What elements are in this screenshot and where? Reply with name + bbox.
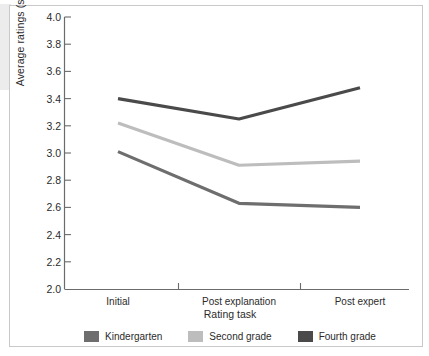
series-line-second-grade — [118, 123, 360, 165]
chart-plot — [0, 0, 429, 356]
chart-legend: Kindergarten Second grade Fourth grade — [60, 331, 400, 342]
legend-swatch-icon — [188, 331, 203, 342]
legend-item-kindergarten: Kindergarten — [84, 331, 162, 342]
legend-label: Fourth grade — [319, 331, 376, 342]
legend-swatch-icon — [298, 331, 313, 342]
y-axis-ticks — [65, 17, 72, 262]
legend-label: Second grade — [209, 331, 271, 342]
legend-item-second-grade: Second grade — [188, 331, 271, 342]
legend-item-fourth-grade: Fourth grade — [298, 331, 376, 342]
x-axis-ticks — [179, 283, 301, 290]
legend-swatch-icon — [84, 331, 99, 342]
figure-root: 4.0 3.8 3.6 3.4 3.2 3.0 2.8 2.6 2.4 2.2 … — [0, 0, 429, 356]
legend-label: Kindergarten — [105, 331, 162, 342]
series-line-kindergarten — [118, 152, 360, 208]
series-line-fourth-grade — [118, 88, 360, 119]
